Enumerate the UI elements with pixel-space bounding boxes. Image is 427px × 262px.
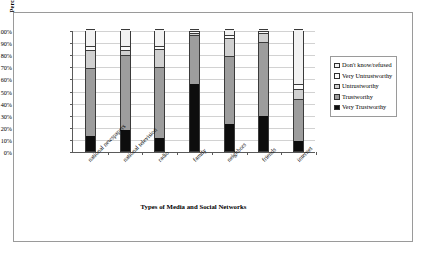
- bar-segment[interactable]: [121, 46, 130, 50]
- legend-label: Trustworthy: [342, 94, 373, 100]
- y-tick-label: 0%: [0, 149, 12, 156]
- x-tick-mark: [108, 152, 109, 155]
- bar-segment[interactable]: [121, 29, 130, 46]
- legend-swatch-icon: [334, 63, 340, 69]
- legend-swatch-icon: [334, 94, 340, 100]
- bar-segment[interactable]: [121, 50, 130, 55]
- bar-segment[interactable]: [121, 130, 130, 151]
- legend-item[interactable]: Very Trustworthy: [334, 102, 392, 113]
- x-tick-mark: [316, 152, 317, 155]
- bar-segment[interactable]: [121, 55, 130, 131]
- bar-segment[interactable]: [259, 31, 268, 32]
- bar-segment[interactable]: [155, 67, 164, 138]
- bar-column[interactable]: [120, 31, 131, 152]
- bar-segment[interactable]: [86, 68, 95, 136]
- y-tick-label: 90%: [0, 40, 12, 47]
- y-tick-mark: [70, 128, 73, 129]
- legend-swatch-icon: [334, 84, 340, 90]
- bar-segment[interactable]: [190, 31, 199, 32]
- stacked-bar[interactable]: [189, 31, 200, 152]
- bar-column[interactable]: [154, 31, 165, 152]
- legend-item[interactable]: Don't know/refused: [334, 60, 392, 71]
- stacked-bar[interactable]: [154, 31, 165, 152]
- y-tick-mark: [70, 92, 73, 93]
- legend-label: Untrustworthy: [342, 83, 379, 89]
- bar-segment[interactable]: [190, 33, 199, 35]
- bar-segment[interactable]: [190, 29, 199, 31]
- y-tick-mark: [70, 67, 73, 68]
- y-tick-mark: [70, 104, 73, 105]
- bar-segment[interactable]: [259, 42, 268, 115]
- bar-segment[interactable]: [155, 138, 164, 151]
- chart-legend: Don't know/refusedVery UntrustworthyUntr…: [330, 56, 397, 117]
- y-tick-label: 100%: [0, 28, 12, 35]
- stacked-bar[interactable]: [85, 31, 96, 152]
- bar-segment[interactable]: [294, 99, 303, 142]
- stacked-bar[interactable]: [258, 31, 269, 152]
- stacked-bar[interactable]: [293, 31, 304, 152]
- legend-swatch-icon: [334, 73, 340, 79]
- bar-segment[interactable]: [225, 38, 234, 56]
- y-tick-mark: [70, 140, 73, 141]
- stacked-bar[interactable]: [224, 31, 235, 152]
- legend-item[interactable]: Very Untrustworthy: [334, 71, 392, 82]
- chart-container: Percentage of Respondents 100%90%80%70%6…: [13, 12, 413, 242]
- y-tick-label: 30%: [0, 112, 12, 119]
- x-tick-mark: [212, 152, 213, 155]
- legend-label: Very Untrustworthy: [342, 73, 392, 79]
- x-tick-mark: [177, 152, 178, 155]
- bar-segment[interactable]: [259, 116, 268, 151]
- x-tick-mark: [247, 152, 248, 155]
- x-tick-mark: [142, 152, 143, 155]
- stacked-bar[interactable]: [120, 31, 131, 152]
- bar-segment[interactable]: [86, 29, 95, 46]
- legend-item[interactable]: Untrustworthy: [334, 81, 392, 92]
- bar-segment[interactable]: [259, 33, 268, 43]
- y-tick-label: 40%: [0, 100, 12, 107]
- bar-segment[interactable]: [259, 29, 268, 31]
- bar-segment[interactable]: [86, 46, 95, 50]
- bar-segment[interactable]: [294, 84, 303, 89]
- legend-swatch-icon: [334, 105, 340, 111]
- y-tick-mark: [70, 43, 73, 44]
- y-tick-label: 60%: [0, 76, 12, 83]
- legend-item[interactable]: Trustworthy: [334, 92, 392, 103]
- y-tick-label: 20%: [0, 124, 12, 131]
- bar-segment[interactable]: [155, 46, 164, 48]
- bar-segment[interactable]: [155, 29, 164, 46]
- y-tick-mark: [70, 116, 73, 117]
- bar-segment[interactable]: [155, 49, 164, 67]
- bar-segment[interactable]: [190, 35, 199, 84]
- bar-column[interactable]: [293, 31, 304, 152]
- bar-segment[interactable]: [294, 89, 303, 99]
- bar-segment[interactable]: [225, 124, 234, 151]
- bar-column[interactable]: [85, 31, 96, 152]
- bar-segment[interactable]: [190, 84, 199, 151]
- bar-segment[interactable]: [294, 29, 303, 84]
- y-tick-mark: [70, 79, 73, 80]
- x-axis-title: Types of Media and Social Networks: [72, 203, 315, 210]
- y-tick-mark: [70, 31, 73, 32]
- bar-segment[interactable]: [225, 35, 234, 37]
- bar-column[interactable]: [258, 31, 269, 152]
- y-tick-label: 70%: [0, 64, 12, 71]
- y-tick-mark: [70, 152, 73, 153]
- bar-segment[interactable]: [86, 50, 95, 68]
- bar-column[interactable]: [189, 31, 200, 152]
- bar-column[interactable]: [224, 31, 235, 152]
- x-tick-mark: [281, 152, 282, 155]
- bar-segment[interactable]: [225, 29, 234, 35]
- y-tick-mark: [70, 55, 73, 56]
- legend-label: Very Trustworthy: [342, 104, 386, 110]
- y-tick-label: 80%: [0, 52, 12, 59]
- legend-label: Don't know/refused: [342, 62, 392, 68]
- y-tick-label: 50%: [0, 88, 12, 95]
- y-tick-label: 10%: [0, 136, 12, 143]
- bar-segment[interactable]: [225, 56, 234, 124]
